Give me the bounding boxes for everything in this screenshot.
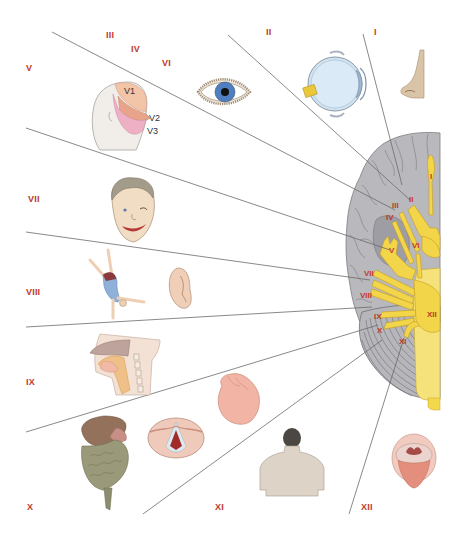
leader-line-VII	[26, 232, 370, 280]
brain-label-VIII: VIII	[360, 291, 372, 300]
cranial-nerves-diagram: V1 V2 V3	[0, 0, 469, 547]
smiling-face-illustration	[112, 178, 155, 242]
leader-line-IX	[26, 325, 378, 432]
larynx-vocal-cords-illustration	[148, 418, 204, 458]
brain-label-IV: IV	[386, 213, 394, 222]
leader-line-V	[26, 128, 390, 250]
label-V1: V1	[124, 86, 135, 96]
brain-label-X: X	[377, 326, 382, 335]
liver-intestines-illustration	[82, 416, 129, 510]
nerve-label-IX: IX	[26, 377, 35, 387]
nerve-label-III: III	[106, 30, 114, 40]
diagram-canvas: V1 V2 V3	[0, 0, 469, 547]
open-mouth-tongue-illustration	[392, 434, 436, 488]
brain-label-III: III	[392, 201, 399, 210]
brain-label-VI: VI	[412, 241, 420, 250]
label-V2: V2	[149, 113, 160, 123]
sagittal-head-pharynx-illustration	[90, 334, 160, 395]
nerve-label-VI: VI	[162, 58, 171, 68]
heart-illustration	[218, 374, 259, 425]
leader-line-II	[228, 35, 410, 200]
brain-label-VII: VII	[364, 269, 374, 278]
nose-illustration	[401, 50, 424, 98]
nerve-label-XII: XII	[361, 502, 373, 512]
shoulders-back-illustration	[260, 428, 324, 496]
cartwheel-figure-illustration	[90, 250, 144, 318]
nerve-label-VIII: VIII	[26, 287, 40, 297]
brain-label-II: II	[409, 195, 413, 204]
brain-illustration	[346, 132, 440, 410]
head-trigeminal-zones-illustration	[92, 82, 150, 150]
brain-label-I: I	[430, 172, 432, 181]
nerve-label-I: I	[374, 27, 377, 37]
label-V3: V3	[147, 126, 158, 136]
eye-illustration	[198, 79, 250, 104]
nerve-label-VII: VII	[28, 194, 40, 204]
eyeball-cross-section-illustration	[303, 52, 366, 117]
nerve-label-V: V	[26, 63, 32, 73]
brain-label-IX: IX	[374, 312, 382, 321]
ear-illustration	[169, 268, 191, 308]
brain-label-XII: XII	[427, 310, 437, 319]
brain-label-V: V	[389, 246, 394, 255]
nerve-label-II: II	[266, 27, 271, 37]
nerve-label-X: X	[27, 502, 33, 512]
brain-label-XI: XI	[399, 337, 407, 346]
nerve-label-IV: IV	[131, 44, 140, 54]
leader-line-VIII	[26, 307, 372, 327]
nerve-label-XI: XI	[215, 502, 224, 512]
